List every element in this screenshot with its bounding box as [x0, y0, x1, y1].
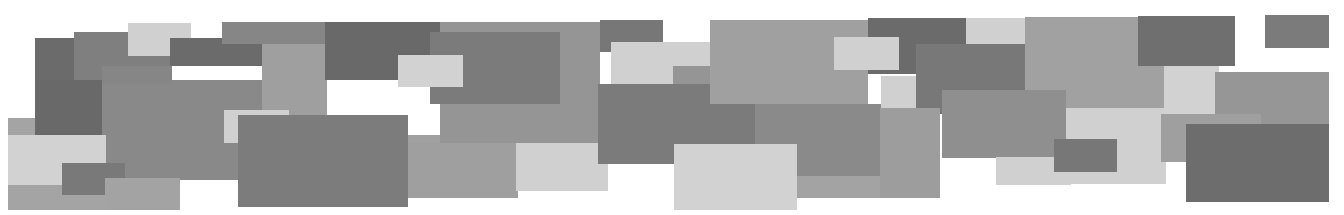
gray-rectangle	[942, 90, 1066, 158]
gray-rectangle	[880, 108, 940, 198]
gray-rectangle	[797, 176, 887, 198]
gray-rectangle	[238, 115, 408, 207]
gray-rectangle	[834, 37, 899, 70]
gray-rectangle	[881, 76, 916, 108]
gray-rectangle	[222, 22, 332, 44]
gray-rectangle	[102, 66, 172, 84]
gray-rectangle	[35, 80, 103, 136]
gray-rectangle	[1164, 66, 1219, 114]
gray-rectangle	[673, 66, 713, 86]
gray-rectangle	[516, 143, 608, 191]
gray-rectangle	[674, 144, 797, 210]
gray-rectangle	[1054, 139, 1117, 172]
gray-rectangle	[398, 55, 463, 87]
gray-rectangle	[1138, 16, 1235, 66]
gray-rectangle	[966, 18, 1030, 46]
gray-rectangle	[1265, 15, 1329, 48]
gray-rectangle	[408, 143, 518, 198]
abstract-rectangle-composition	[0, 0, 1344, 215]
gray-rectangle	[1186, 124, 1329, 202]
gray-rectangle	[105, 178, 180, 210]
